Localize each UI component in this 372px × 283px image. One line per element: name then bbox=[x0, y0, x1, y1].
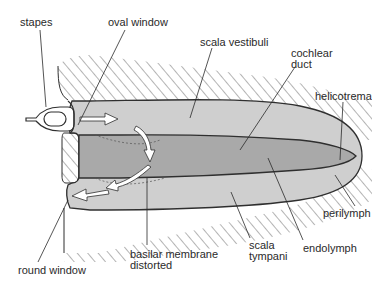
label-helicotrema: helicotrema bbox=[315, 90, 372, 102]
label-oval-window: oval window bbox=[108, 16, 168, 28]
label-round-window: round window bbox=[18, 264, 86, 276]
bony-wall bbox=[62, 133, 79, 183]
label-scala-vestibuli: scala vestibuli bbox=[200, 36, 268, 48]
label-stapes: stapes bbox=[20, 16, 52, 28]
stapes-bone bbox=[26, 101, 74, 133]
label-scala-tympani-2: tympani bbox=[249, 250, 288, 262]
label-basilar-membrane-2: distorted bbox=[130, 259, 172, 271]
label-cochlear-duct-2: duct bbox=[291, 58, 312, 70]
label-perilymph: perilymph bbox=[323, 207, 371, 219]
label-endolymph: endolymph bbox=[303, 242, 357, 254]
cochlea-diagram bbox=[0, 0, 372, 283]
